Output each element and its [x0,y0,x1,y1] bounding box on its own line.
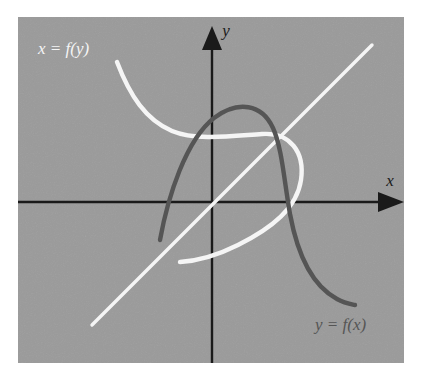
function-curve-label: y = f(x) [313,315,366,334]
graph-canvas: x y x = f(y) y = f(x) [0,0,424,379]
y-axis-label: y [220,21,230,40]
x-axis-label: x [385,171,394,190]
inverse-curve-label: x = f(y) [37,39,89,58]
figure-container: x y x = f(y) y = f(x) [0,0,424,379]
